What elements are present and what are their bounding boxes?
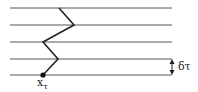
start-label: xτ [37, 76, 48, 91]
diagram: xτ δτ [0, 0, 198, 92]
horizontal-lines [10, 8, 172, 75]
interval-arrow [170, 59, 175, 75]
interval-label: δτ [178, 60, 191, 73]
diagram-canvas [0, 0, 198, 92]
